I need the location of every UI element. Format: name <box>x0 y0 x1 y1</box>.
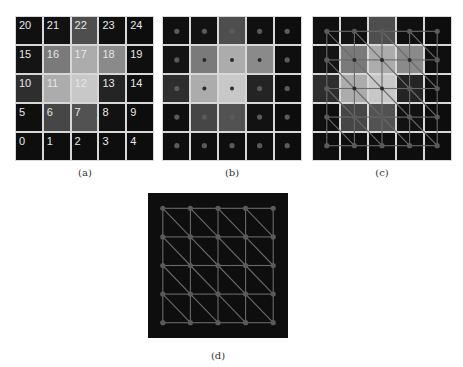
pixel-index-label: 10 <box>19 78 31 89</box>
pixel-cell: 7 <box>72 104 98 131</box>
pixel-cell <box>369 75 395 102</box>
pixel-cell <box>191 17 217 44</box>
pixel-cell <box>219 17 245 44</box>
pixel-cell <box>369 46 395 73</box>
pixel-index-label: 5 <box>19 107 25 118</box>
pixel-index-label: 6 <box>47 107 53 118</box>
pixel-index-label: 3 <box>102 136 108 147</box>
pixel-cell <box>369 133 395 160</box>
pixel-cell <box>163 133 189 160</box>
caption-d: (d) <box>188 350 248 361</box>
pixel-index-label: 2 <box>75 136 81 147</box>
pixel-index-label: 11 <box>47 78 58 89</box>
pixel-cell <box>247 133 273 160</box>
pixel-cell <box>425 75 451 102</box>
pixel-index-label: 14 <box>130 78 142 89</box>
pixel-cell: 18 <box>99 46 125 73</box>
pixel-index-label: 0 <box>19 136 25 147</box>
caption-b: (b) <box>202 167 262 178</box>
pixel-cell <box>219 104 245 131</box>
pixel-cell <box>219 75 245 102</box>
caption-a: (a) <box>55 167 115 178</box>
pixel-cell: 0 <box>16 133 42 160</box>
pixel-cell: 24 <box>127 17 153 44</box>
pixel-index-label: 4 <box>130 136 136 147</box>
mesh-background <box>148 193 288 338</box>
pixel-cell <box>397 75 423 102</box>
panel-b <box>162 16 302 161</box>
pixel-index-label: 7 <box>75 107 81 118</box>
pixel-cell <box>369 104 395 131</box>
pixel-cell: 21 <box>44 17 70 44</box>
pixel-grid-labeled: 2021222324151617181910111213145678901234 <box>15 16 154 161</box>
pixel-cell <box>397 17 423 44</box>
pixel-index-label: 21 <box>47 20 59 31</box>
pixel-cell <box>163 17 189 44</box>
pixel-cell: 22 <box>72 17 98 44</box>
pixel-cell <box>425 133 451 160</box>
pixel-cell <box>247 46 273 73</box>
pixel-cell: 5 <box>16 104 42 131</box>
pixel-cell <box>163 104 189 131</box>
pixel-cell: 6 <box>44 104 70 131</box>
pixel-cell <box>397 104 423 131</box>
pixel-cell: 16 <box>44 46 70 73</box>
pixel-cell <box>219 46 245 73</box>
pixel-cell <box>191 75 217 102</box>
pixel-index-label: 8 <box>102 107 108 118</box>
pixel-cell <box>397 46 423 73</box>
pixel-index-label: 18 <box>102 49 114 60</box>
pixel-cell <box>275 104 301 131</box>
pixel-grid-with-nodes <box>162 16 302 161</box>
pixel-cell <box>275 46 301 73</box>
pixel-cell: 2 <box>72 133 98 160</box>
pixel-cell <box>313 75 339 102</box>
pixel-cell: 14 <box>127 75 153 102</box>
pixel-cell: 11 <box>44 75 70 102</box>
pixel-cell <box>341 46 367 73</box>
pixel-cell <box>313 133 339 160</box>
pixel-cell <box>191 104 217 131</box>
pixel-index-label: 17 <box>75 49 87 60</box>
pixel-index-label: 15 <box>19 49 31 60</box>
pixel-cell: 1 <box>44 133 70 160</box>
pixel-cell: 3 <box>99 133 125 160</box>
pixel-index-label: 12 <box>75 78 87 89</box>
pixel-cell: 23 <box>99 17 125 44</box>
pixel-index-label: 22 <box>75 20 87 31</box>
pixel-cell <box>397 133 423 160</box>
pixel-cell <box>425 46 451 73</box>
pixel-cell: 10 <box>16 75 42 102</box>
pixel-cell <box>191 133 217 160</box>
pixel-cell <box>341 104 367 131</box>
pixel-cell <box>313 46 339 73</box>
pixel-cell <box>247 75 273 102</box>
pixel-cell: 13 <box>99 75 125 102</box>
pixel-index-label: 24 <box>130 20 142 31</box>
pixel-cell <box>275 133 301 160</box>
pixel-index-label: 23 <box>102 20 114 31</box>
pixel-cell: 17 <box>72 46 98 73</box>
pixel-cell: 4 <box>127 133 153 160</box>
pixel-cell: 9 <box>127 104 153 131</box>
pixel-cell <box>425 17 451 44</box>
pixel-cell <box>341 75 367 102</box>
pixel-index-label: 16 <box>47 49 59 60</box>
pixel-cell <box>341 17 367 44</box>
pixel-cell <box>313 104 339 131</box>
panel-c <box>312 16 452 161</box>
pixel-cell <box>219 133 245 160</box>
pixel-cell <box>163 46 189 73</box>
pixel-cell: 20 <box>16 17 42 44</box>
pixel-cell <box>313 17 339 44</box>
pixel-cell <box>247 17 273 44</box>
pixel-cell <box>191 46 217 73</box>
pixel-grid-with-mesh <box>312 16 452 161</box>
pixel-index-label: 1 <box>47 136 53 147</box>
pixel-index-label: 9 <box>130 107 136 118</box>
pixel-cell <box>275 75 301 102</box>
pixel-cell: 8 <box>99 104 125 131</box>
pixel-index-label: 19 <box>130 49 142 60</box>
pixel-cell <box>247 104 273 131</box>
pixel-cell <box>369 17 395 44</box>
